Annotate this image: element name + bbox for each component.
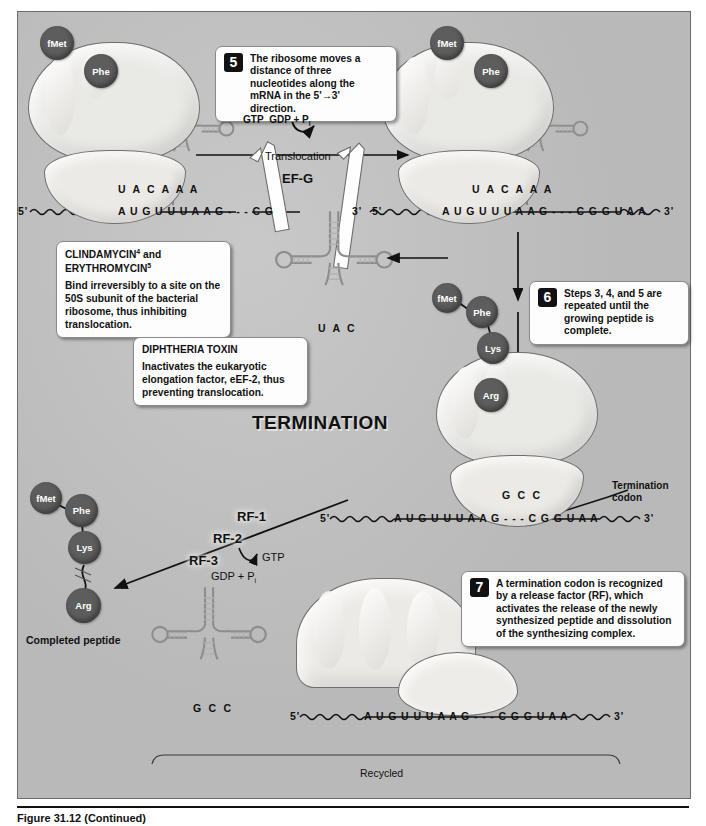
step-number-badge: 6	[538, 288, 557, 307]
anticodon-right-ribosome: U A C A A A	[472, 183, 554, 195]
step-6-text: Steps 3, 4, and 5 are repeated until the…	[564, 288, 680, 338]
step-number-badge: 7	[470, 578, 489, 597]
step-6-callout[interactable]: 6 Steps 3, 4, and 5 are repeated until t…	[529, 281, 689, 345]
mrna-5prime-right: 5'	[372, 205, 382, 217]
amino-acid-phe-left: Phe	[84, 54, 118, 88]
ef-g-label: EF-G	[282, 171, 313, 186]
amino-acid-label: fMet	[437, 38, 457, 49]
clindamycin-heading: CLINDAMYCIN4 and ERYTHROMYCIN5	[65, 248, 222, 275]
step-7-callout[interactable]: 7 A termination codon is recognized by a…	[461, 571, 685, 647]
erythromycin-name: ERYTHROMYCIN	[65, 263, 147, 274]
diphtheria-body: Inactivates the eukaryotic elongation fa…	[142, 361, 299, 399]
mrna-3prime-left-end: 3'	[352, 205, 362, 217]
amino-acid-fmet-completed: fMet	[30, 482, 62, 514]
completed-peptide-label: Completed peptide	[26, 634, 121, 646]
rf1-label: RF-1	[237, 509, 266, 524]
amino-acid-fmet-left: fMet	[40, 26, 74, 60]
anticodon-left-ribosome: U A C A A A	[118, 183, 200, 195]
amino-acid-phe-right: Phe	[474, 54, 508, 88]
mrna-sequence-termination: A U G U U U A A G - - - C G G U A A	[394, 512, 599, 524]
rf-gtp-label: GTP	[262, 551, 285, 563]
mrna-sequence-right: A U G U U U A A G - - - C G G U A A	[442, 205, 647, 217]
amino-acid-label: Arg	[75, 600, 91, 611]
amino-acid-label: Phe	[73, 505, 90, 516]
anticodon-termination-ribosome: G C C	[502, 489, 542, 501]
translocation-label: Translocation	[265, 150, 331, 162]
amino-acid-fmet-right: fMet	[430, 26, 464, 60]
trna-free-middle	[276, 211, 392, 285]
step-5-text: The ribosome moves a distance of three n…	[250, 53, 388, 115]
mrna-3prime-termination: 3'	[644, 512, 654, 524]
termination-codon-label: Termination codon	[612, 480, 690, 504]
figure-caption: Figure 31.12 (Continued)	[17, 812, 146, 824]
diphtheria-toxin-callout[interactable]: DIPHTHERIA TOXIN Inactivates the eukaryo…	[133, 337, 308, 406]
heading-conjunction: and	[140, 249, 161, 260]
amino-acid-phe-completed: Phe	[65, 494, 98, 527]
diphtheria-heading: DIPHTHERIA TOXIN	[142, 344, 299, 356]
anticodon-free-trna-middle: U A C	[318, 322, 357, 334]
clindamycin-name: CLINDAMYCIN	[65, 249, 136, 260]
amino-acid-arg-completed: Arg	[66, 588, 101, 623]
mrna-5prime-bottom: 5'	[290, 710, 300, 722]
mrna-sequence-left: A U G U U U A A G - - - C G	[118, 205, 274, 217]
rf2-label: RF-2	[213, 531, 242, 546]
termination-title: TERMINATION	[252, 412, 388, 434]
clindamycin-erythromycin-callout[interactable]: CLINDAMYCIN4 and ERYTHROMYCIN5 Bind irre…	[56, 241, 231, 338]
mrna-sequence-bottom: A U G U U U A A G - - - C G G U A A	[364, 710, 569, 722]
amino-acid-label: Phe	[473, 307, 490, 318]
amino-acid-label: fMet	[437, 293, 457, 304]
amino-acid-label: Phe	[482, 66, 499, 77]
erythromycin-footnote: 5	[147, 262, 151, 269]
amino-acid-label: Arg	[483, 390, 499, 401]
ribosome-large-subunit-termination	[436, 352, 598, 466]
rf-gtp-hydrolysis-curve	[239, 548, 257, 560]
ribosome-large-subunit-right	[382, 42, 554, 162]
step-number-badge: 5	[224, 53, 243, 72]
amino-acid-label: fMet	[36, 493, 56, 504]
amino-acid-label: Phe	[92, 66, 109, 77]
rf3-label: RF-3	[189, 553, 218, 568]
amino-acid-lys-completed: Lys	[68, 531, 101, 564]
amino-acid-lys-chain: Lys	[477, 332, 509, 364]
amino-acid-phe-chain: Phe	[466, 296, 498, 328]
caption-rule	[17, 806, 689, 808]
amino-acid-label: fMet	[47, 38, 67, 49]
trna-free-bottom	[152, 587, 265, 659]
amino-acid-arg-chain: Arg	[474, 378, 508, 412]
mrna-5prime-termination: 5'	[320, 512, 330, 524]
clindamycin-body: Bind irreversibly to a site on the 50S s…	[65, 280, 222, 331]
mrna-3prime-right: 3'	[664, 205, 674, 217]
amino-acid-label: Lys	[485, 343, 501, 354]
gtp-label: GTP GDP + Pi	[243, 114, 311, 127]
rf-gdp-pi-label: GDP + Pi	[211, 570, 256, 584]
step-7-text: A termination codon is recognized by a r…	[496, 578, 676, 640]
mrna-3prime-bottom: 3'	[614, 710, 624, 722]
amino-acid-fmet-chain: fMet	[432, 283, 462, 313]
step-5-callout[interactable]: 5 The ribosome moves a distance of three…	[215, 46, 397, 122]
recycled-brace	[152, 755, 620, 764]
mrna-5prime-left: 5'	[18, 205, 28, 217]
anticodon-free-trna-bottom: G C C	[193, 702, 233, 714]
amino-acid-label: Lys	[76, 542, 92, 553]
figure-page: fMet Phe fMet Phe fMet Phe Lys Arg fMet …	[0, 0, 706, 826]
recycled-label: Recycled	[360, 767, 403, 779]
